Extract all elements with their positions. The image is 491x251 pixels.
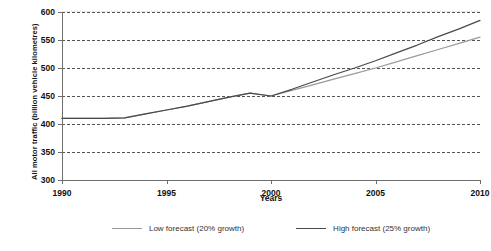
series-line xyxy=(62,20,480,118)
legend-line-icon xyxy=(112,228,142,229)
x-tick-mark xyxy=(62,180,63,184)
y-tick-label: 350 xyxy=(41,147,55,157)
x-tick-mark xyxy=(167,180,168,184)
x-tick-mark xyxy=(480,180,481,184)
chart-figure: All motor traffic (billion vehicle kilom… xyxy=(0,0,491,251)
legend-line-icon xyxy=(296,228,326,229)
y-tick-label: 400 xyxy=(41,119,55,129)
chart-legend: Low forecast (20% growth)High forecast (… xyxy=(62,224,480,233)
x-tick-mark xyxy=(376,180,377,184)
x-tick-mark xyxy=(271,180,272,184)
x-axis-title: Years xyxy=(62,193,480,203)
y-tick-label: 500 xyxy=(41,63,55,73)
y-tick-label: 450 xyxy=(41,91,55,101)
legend-label: Low forecast (20% growth) xyxy=(149,224,244,233)
legend-item[interactable]: Low forecast (20% growth) xyxy=(112,224,244,233)
legend-item[interactable]: High forecast (25% growth) xyxy=(296,224,430,233)
y-tick-label: 550 xyxy=(41,35,55,45)
plot-area: 300350400450500550600 199019952000200520… xyxy=(62,12,480,180)
series-lines xyxy=(62,12,480,180)
y-tick-label: 300 xyxy=(41,175,55,185)
y-tick-label: 600 xyxy=(41,7,55,17)
legend-label: High forecast (25% growth) xyxy=(333,224,430,233)
series-line xyxy=(62,37,480,118)
